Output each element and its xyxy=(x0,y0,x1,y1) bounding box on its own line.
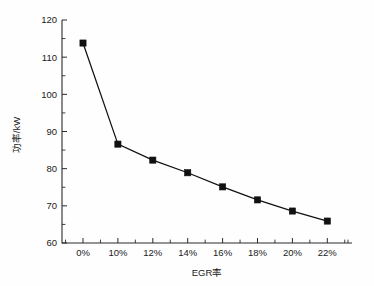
y-tick-label-120: 120 xyxy=(41,14,57,25)
y-axis-ticks xyxy=(62,20,67,243)
x-tick-label-1: 10% xyxy=(108,247,128,258)
data-point-22% xyxy=(324,218,330,224)
data-point-markers xyxy=(80,40,331,224)
x-axis-tick-labels: 0%10%12%14%16%18%20%22% xyxy=(76,247,337,258)
y-axis-tick-labels: 60708090100110120 xyxy=(41,14,57,248)
y-tick-label-100: 100 xyxy=(41,89,57,100)
data-series-power xyxy=(83,43,327,221)
x-tick-label-0: 0% xyxy=(76,247,90,258)
x-axis-ticks xyxy=(66,238,348,243)
x-tick-label-4: 16% xyxy=(213,247,233,258)
data-point-10% xyxy=(115,141,121,147)
y-tick-label-80: 80 xyxy=(46,163,57,174)
y-tick-label-70: 70 xyxy=(46,200,57,211)
x-tick-label-2: 12% xyxy=(143,247,163,258)
data-point-18% xyxy=(254,197,260,203)
data-point-0% xyxy=(80,40,86,46)
axis-lines xyxy=(62,20,352,243)
x-tick-label-6: 20% xyxy=(283,247,303,258)
series-line-power xyxy=(83,43,327,221)
data-point-14% xyxy=(185,170,191,176)
y-axis-title: 功率/kW xyxy=(11,117,22,153)
x-tick-label-7: 22% xyxy=(318,247,338,258)
y-tick-label-60: 60 xyxy=(46,237,57,248)
x-axis-title: EGR率 xyxy=(192,267,223,278)
data-point-12% xyxy=(150,157,156,163)
x-tick-label-5: 18% xyxy=(248,247,268,258)
line-chart: 60708090100110120 0%10%12%14%16%18%20%22… xyxy=(0,0,374,286)
data-point-16% xyxy=(220,184,226,190)
x-tick-label-3: 14% xyxy=(178,247,198,258)
y-tick-label-110: 110 xyxy=(42,52,57,63)
chart-container: 60708090100110120 0%10%12%14%16%18%20%22… xyxy=(0,0,374,286)
y-tick-label-90: 90 xyxy=(46,126,57,137)
data-point-20% xyxy=(289,208,295,214)
